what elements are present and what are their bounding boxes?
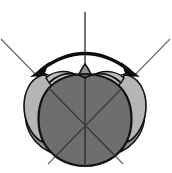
head-rotation-diagram — [0, 0, 172, 173]
figure-root: Superior view of head showing axial rota… — [0, 0, 172, 173]
